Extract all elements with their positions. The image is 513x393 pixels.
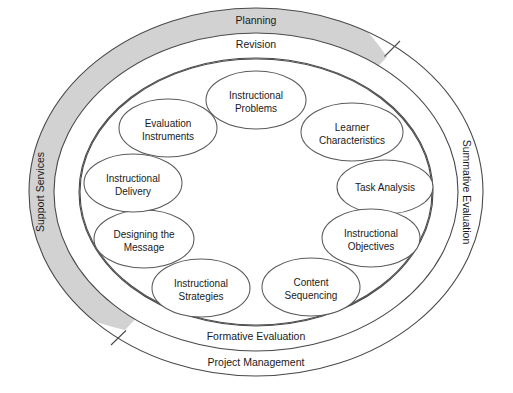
- core-element-instructional-strategies[interactable]: InstructionalStrategies: [152, 259, 250, 317]
- core-element-label-line2: Message: [124, 242, 165, 253]
- core-element-instructional-delivery[interactable]: InstructionalDelivery: [84, 154, 182, 212]
- core-element-label-line2: Sequencing: [285, 290, 338, 301]
- core-element-designing-the-message[interactable]: Designing theMessage: [94, 210, 194, 268]
- core-element-learner-characteristics[interactable]: LearnerCharacteristics: [301, 103, 403, 161]
- diagram-canvas: Planning Support Services Project Manage…: [0, 0, 513, 393]
- instructional-design-diagram: Planning Support Services Project Manage…: [0, 0, 513, 393]
- outer-ring-label-project-management: Project Management: [208, 356, 305, 368]
- core-element-label-line1: Evaluation: [145, 118, 192, 129]
- core-element-task-analysis[interactable]: Task Analysis: [337, 160, 433, 214]
- core-element-label-line1: Content: [293, 277, 328, 288]
- core-element-label-line2: Characteristics: [319, 135, 385, 146]
- middle-ring-label-formative-evaluation: Formative Evaluation: [207, 330, 306, 342]
- core-element-evaluation-instruments[interactable]: EvaluationInstruments: [119, 99, 217, 157]
- core-element-label-line2: Instruments: [142, 131, 194, 142]
- outer-ring-label-support-services: Support Services: [34, 152, 46, 232]
- core-element-label-line2: Problems: [235, 103, 277, 114]
- core-element-instructional-objectives[interactable]: InstructionalObjectives: [322, 209, 420, 267]
- middle-ring-label-revision: Revision: [236, 38, 276, 50]
- core-element-label-line1: Designing the: [113, 229, 175, 240]
- outer-ring-label-planning: Planning: [236, 14, 277, 26]
- core-element-label-line2: Delivery: [115, 186, 151, 197]
- core-element-instructional-problems[interactable]: InstructionalProblems: [206, 71, 306, 129]
- core-element-label-line1: Instructional: [106, 173, 160, 184]
- core-element-label-line1: Instructional: [174, 278, 228, 289]
- core-element-label-line1: Learner: [335, 122, 370, 133]
- core-element-label-line1: Instructional: [344, 228, 398, 239]
- gray-band-edge-bottom-left: [111, 331, 126, 346]
- core-element-content-sequencing[interactable]: ContentSequencing: [262, 258, 360, 316]
- core-element-label-line2: Strategies: [178, 291, 223, 302]
- core-element-label-line2: Objectives: [348, 241, 395, 252]
- middle-ring-label-summative-evaluation: Summative Evaluation: [461, 140, 473, 245]
- core-element-label-line1: Task Analysis: [355, 182, 415, 193]
- core-element-label-line1: Instructional: [229, 90, 283, 101]
